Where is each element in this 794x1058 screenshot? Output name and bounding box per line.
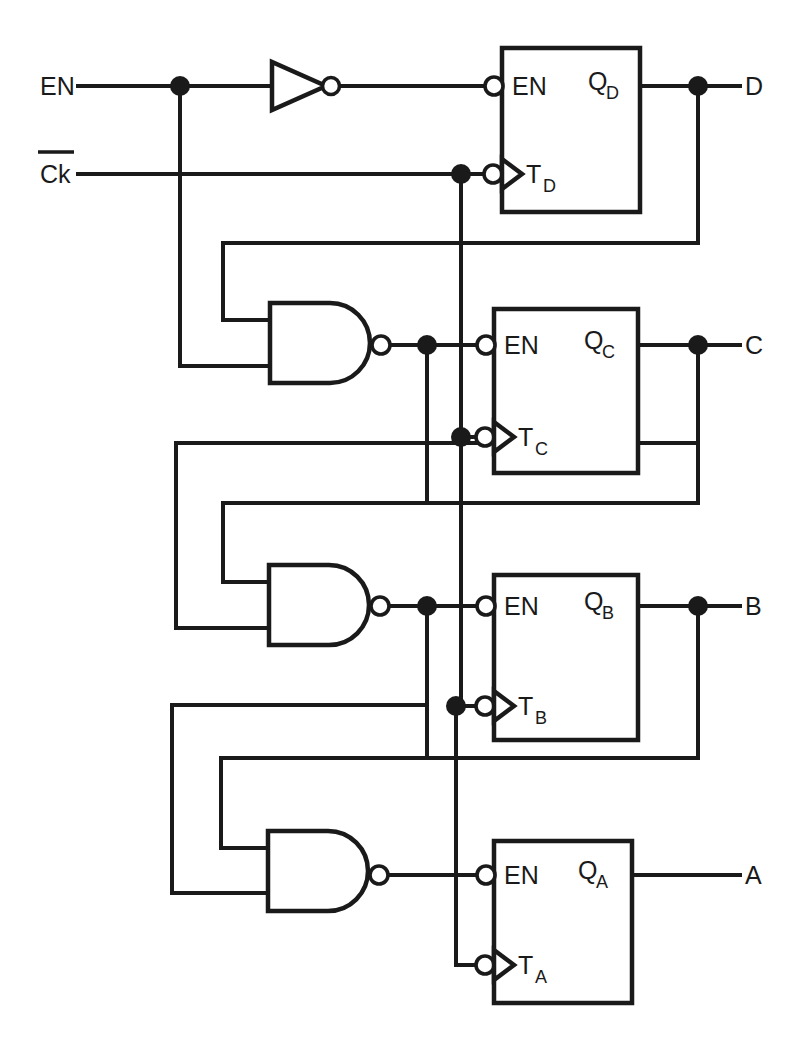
ffa-q-subscript: A — [596, 872, 608, 892]
nand-gate-icon-c — [270, 303, 390, 383]
nand-gate-icon-a — [268, 831, 388, 911]
ffc-en-bubble-icon — [477, 336, 495, 354]
ffb-q-label: Q — [584, 587, 603, 615]
ffd-t-label: T — [526, 160, 541, 188]
nandc-body — [270, 303, 370, 383]
ffc-t-label: T — [518, 423, 533, 451]
logic-circuit-svg: EN Ck D C B A — [0, 0, 794, 1058]
ffb-q-subscript: B — [602, 603, 614, 623]
nanda-body — [268, 831, 368, 911]
ffd-q-subscript: D — [606, 83, 619, 103]
ffd-t-bubble-icon — [484, 165, 502, 183]
junction-dot-icon-ck-td — [451, 164, 471, 184]
ck-label-text: Ck — [40, 160, 71, 188]
ffa-q-label: Q — [578, 856, 597, 884]
ffb-t-label: T — [518, 692, 533, 720]
ffd-q-label: Q — [588, 67, 607, 95]
output-label-c: C — [745, 331, 763, 359]
junction-dot-icon-ck-tc — [451, 427, 471, 447]
junction-dot-icon-qd — [688, 76, 708, 96]
ffa-t-bubble-icon — [476, 956, 494, 974]
junction-dot-icon-qb — [688, 596, 708, 616]
ffb-t-subscript: B — [535, 708, 547, 728]
flipflop-d: EN T D Q D — [484, 48, 640, 212]
junction-dot-icon-ck-tb — [446, 696, 466, 716]
ffc-t-subscript: C — [535, 439, 548, 459]
input-label-ck: Ck — [38, 152, 74, 188]
inverter-bubble-icon — [323, 78, 340, 95]
junction-dot-icon-qc — [688, 335, 708, 355]
junction-dot-icon-en — [170, 76, 190, 96]
inverter-gate-icon — [272, 62, 340, 110]
nandb-body — [269, 565, 369, 645]
flipflop-c: EN T C Q C — [476, 309, 638, 473]
nandc-output-bubble-icon — [372, 336, 390, 354]
inverter-triangle — [272, 62, 326, 110]
en-label-text: EN — [40, 72, 75, 100]
schematic-canvas: EN Ck D C B A — [0, 0, 794, 1058]
ffd-en-label: EN — [512, 72, 547, 100]
wire-clock-bus-lower-to-tta — [456, 706, 484, 965]
input-label-en: EN — [40, 72, 75, 100]
flipflop-b: EN T B Q B — [476, 575, 638, 740]
wire-network — [78, 86, 740, 965]
ffc-q-subscript: C — [602, 342, 615, 362]
nand-gate-icon-b — [269, 565, 389, 645]
ffc-q-label: Q — [584, 326, 603, 354]
ffc-en-label: EN — [504, 331, 539, 359]
junction-dot-icon-nandb — [417, 596, 437, 616]
ffa-t-subscript: A — [535, 967, 547, 987]
flipflop-a: EN T A Q A — [476, 841, 632, 1003]
output-label-a: A — [745, 861, 762, 889]
ffc-t-bubble-icon — [476, 428, 494, 446]
ffa-en-label: EN — [504, 861, 539, 889]
nandb-output-bubble-icon — [371, 597, 389, 615]
ffa-en-bubble-icon — [477, 866, 495, 884]
ffd-en-bubble-icon — [485, 77, 503, 95]
ffb-en-bubble-icon — [477, 597, 495, 615]
ffa-t-label: T — [518, 951, 533, 979]
ffb-t-bubble-icon — [476, 697, 494, 715]
junction-dot-icon-nandc — [417, 335, 437, 355]
nanda-output-bubble-icon — [370, 866, 388, 884]
ffb-en-label: EN — [504, 592, 539, 620]
output-label-b: B — [745, 592, 762, 620]
output-label-d: D — [745, 72, 763, 100]
ffd-t-subscript: D — [543, 176, 556, 196]
wire-en-branch-to-nandc — [180, 86, 270, 366]
